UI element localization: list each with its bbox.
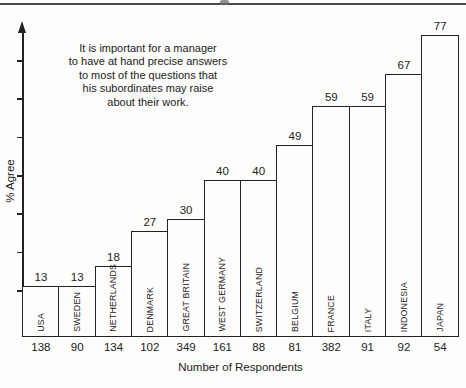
figure-page: It is important for a manager to have at… [0,0,466,388]
bar-indonesia: INDONESIA [385,74,423,337]
respondent-count: 88 [240,341,278,354]
x-axis-label: Number of Respondents [22,361,459,373]
bar-value-label: 59 [349,91,387,104]
respondent-count: 134 [95,341,133,354]
respondent-count: 54 [421,341,459,354]
bar-value-label: 67 [385,59,423,72]
bar-value-label: 18 [95,251,133,264]
bar-country-label: GREAT BRITAIN [182,263,191,332]
bar-country-label: FRANCE [327,295,336,332]
bar-usa: USA [22,286,60,337]
bar-value-label: 13 [22,271,60,284]
bar-great-britain: GREAT BRITAIN [167,219,205,337]
respondent-count: 161 [204,341,242,354]
bar-japan: JAPAN [421,35,459,337]
top-rule-line [0,3,466,5]
y-axis-label: % Agree [4,146,18,216]
bar-value-label: 49 [276,130,314,143]
bar-value-label: 13 [58,271,96,284]
respondent-count: 90 [58,341,96,354]
bar-country-label: SWITZERLAND [254,267,263,332]
bar-country-label: ITALY [363,308,372,332]
y-axis-tick [17,137,24,139]
bar-country-label: BELGIUM [291,291,300,332]
bar-west-germany: WEST GERMANY [204,180,242,337]
respondent-count: 382 [312,341,350,354]
y-axis-arrowhead [18,21,26,33]
bar-country-label: JAPAN [436,303,445,332]
y-axis-tick [17,60,24,62]
bar-country-label: DENMARK [145,287,154,332]
bar-denmark: DENMARK [131,231,169,337]
bar-sweden: SWEDEN [58,286,96,337]
bar-value-label: 30 [167,204,205,217]
respondent-count: 138 [22,341,60,354]
bar-france: FRANCE [312,106,350,337]
y-axis-tick [17,252,24,254]
y-axis-tick [17,98,24,100]
bar-belgium: BELGIUM [276,145,314,337]
bar-country-label: NETHERLANDS [109,264,118,332]
respondent-count: 349 [167,341,205,354]
bar-netherlands: NETHERLANDS [95,266,133,337]
chart-annotation: It is important for a manager to have at… [40,42,256,109]
bar-value-label: 40 [204,165,242,178]
bar-country-label: WEST GERMANY [218,257,227,332]
bar-country-label: INDONESIA [399,282,408,332]
bar-value-label: 27 [131,216,169,229]
bar-country-label: SWEDEN [73,292,82,332]
respondent-count: 81 [276,341,314,354]
bar-value-label: 77 [421,20,459,33]
bar-switzerland: SWITZERLAND [240,180,278,337]
bar-country-label: USA [36,313,45,332]
respondent-count: 92 [385,341,423,354]
cropped-text-artifact [220,0,229,5]
bar-italy: ITALY [349,106,387,337]
respondent-count: 102 [131,341,169,354]
respondent-count: 91 [349,341,387,354]
bar-value-label: 40 [240,165,278,178]
bar-value-label: 59 [312,91,350,104]
